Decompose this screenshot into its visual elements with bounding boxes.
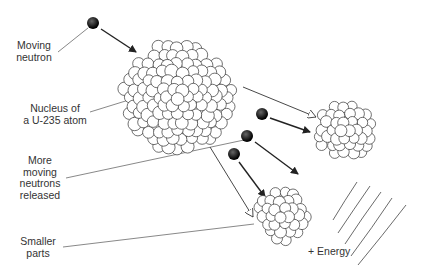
u235-nucleus	[118, 40, 237, 155]
label-more-neutrons: More moving neutrons released	[14, 155, 66, 201]
label-energy: + Energy	[308, 246, 350, 258]
fragment-nucleus-upper	[314, 101, 375, 159]
released-neutron	[241, 130, 253, 142]
label-moving-neutron: Moving neutron	[8, 40, 60, 63]
label-nucleus: Nucleus of a U-235 atom	[18, 103, 92, 126]
released-neutron	[256, 108, 268, 120]
label-smaller-parts: Smaller parts	[14, 236, 62, 259]
fission-diagram	[0, 0, 427, 273]
released-neutron	[228, 148, 240, 160]
fragment-nucleus-lower	[254, 187, 311, 245]
incoming-neutron	[87, 17, 99, 29]
